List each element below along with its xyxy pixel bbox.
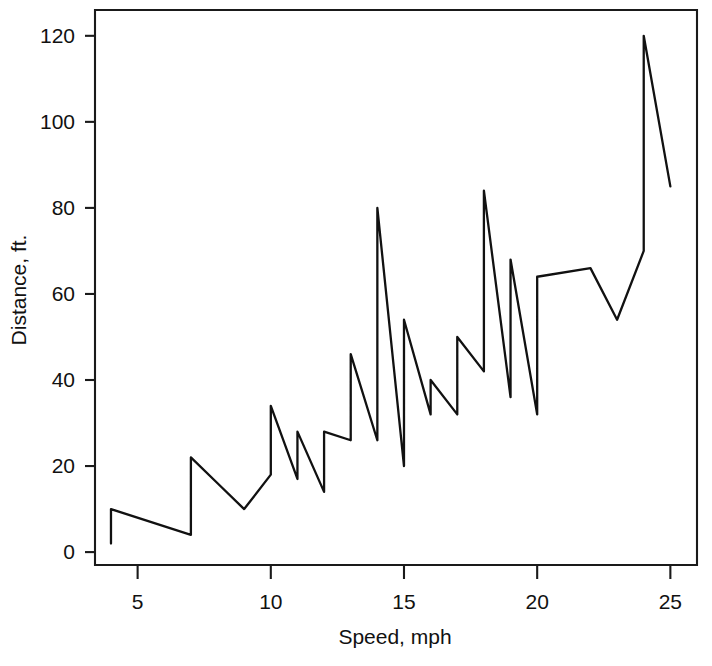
x-tick-label: 25 — [659, 590, 682, 613]
x-tick-label: 20 — [525, 590, 548, 613]
line-chart: 020406080100120 510152025 Speed, mph Dis… — [0, 0, 712, 666]
y-tick-label: 20 — [52, 454, 75, 477]
x-tick-label: 15 — [392, 590, 415, 613]
chart-container: 020406080100120 510152025 Speed, mph Dis… — [0, 0, 712, 666]
y-tick-label: 100 — [40, 110, 75, 133]
x-tick-label: 10 — [259, 590, 282, 613]
y-tick-label: 120 — [40, 24, 75, 47]
y-axis-title: Distance, ft. — [7, 235, 30, 346]
y-tick-label: 40 — [52, 368, 75, 391]
chart-background — [0, 0, 712, 666]
y-tick-label: 60 — [52, 282, 75, 305]
x-tick-label: 5 — [132, 590, 144, 613]
x-axis-title: Speed, mph — [338, 625, 451, 648]
y-tick-label: 80 — [52, 196, 75, 219]
y-tick-label: 0 — [63, 540, 75, 563]
